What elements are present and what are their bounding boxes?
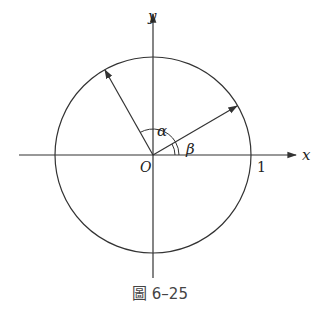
angle-arc-beta-inner [172,144,175,155]
unit-circle-diagram: y x O 1 α β 圖 6–25 [0,0,321,313]
unit-tick-label: 1 [257,159,266,175]
origin-label: O [140,159,152,175]
x-axis-label: x [302,146,311,164]
y-axis-label: y [147,7,157,25]
vector-alpha-beta [105,70,153,155]
alpha-label: α [157,122,167,140]
figure-caption: 圖 6–25 [132,285,188,303]
beta-label: β [185,140,195,158]
angle-arc-beta-outer [176,142,180,155]
